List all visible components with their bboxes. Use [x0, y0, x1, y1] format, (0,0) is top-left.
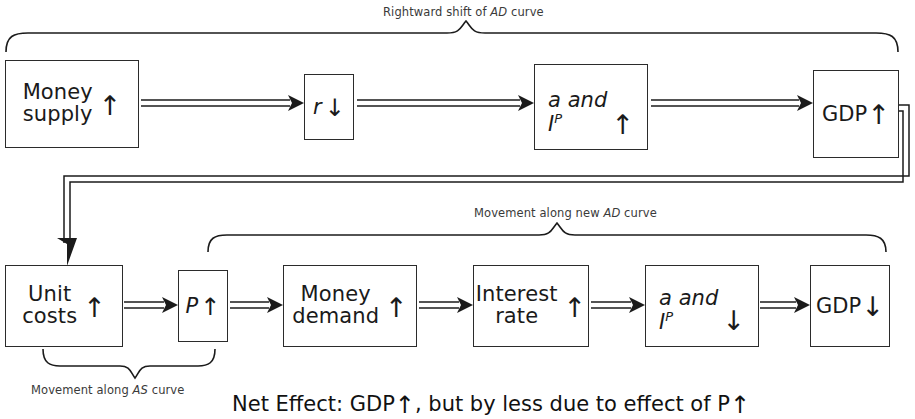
node-money-demand-line1: Money: [301, 282, 371, 306]
feedback-loop-gdp-to-unitcosts: [57, 105, 909, 266]
caption-movement-new-ad-tail: curve: [620, 206, 656, 220]
node-money-demand-direction-icon: ↑: [385, 297, 408, 319]
node-money-supply-line1: Money: [23, 80, 93, 104]
node-price-level-label: P: [186, 295, 199, 317]
node-unit-costs-direction-icon: ↑: [83, 297, 106, 319]
node-a-and-ip-down-superscript: P: [665, 309, 673, 324]
net-effect-arrow-up-2-icon: ↑: [730, 396, 750, 415]
caption-rightward-shift-ad-italic: AD: [490, 5, 507, 19]
net-effect-arrow-up-icon: ↑: [395, 396, 415, 415]
node-a-and-ip-up[interactable]: a and IP ↑: [534, 64, 648, 150]
node-interest-rate-r-label: r: [313, 96, 322, 118]
node-a-and-ip-down[interactable]: a and IP ↓: [645, 265, 759, 347]
node-a-and-ip-up-superscript: P: [554, 111, 562, 126]
node-price-level[interactable]: P ↑: [178, 270, 228, 342]
arrow-bot-5: [760, 297, 810, 313]
net-effect-statement: Net Effect: GDP↑, but by less due to eff…: [232, 392, 750, 416]
caption-movement-as-italic: AS: [133, 383, 148, 397]
arrow-bot-4: [591, 297, 645, 313]
caption-movement-new-ad-text: Movement along new: [474, 206, 603, 220]
arrow-bot-1: [124, 297, 178, 313]
node-gdp-up-direction-icon: ↑: [867, 104, 890, 126]
caption-movement-as: Movement along AS curve: [31, 383, 184, 397]
node-unit-costs-line2: costs: [22, 304, 77, 328]
node-money-demand-line2: demand: [292, 304, 379, 328]
node-a-and-ip-down-direction-icon: ↓: [722, 310, 745, 332]
node-gdp-down[interactable]: GDP ↓: [810, 265, 890, 347]
node-money-supply[interactable]: Money supply ↑: [5, 60, 139, 148]
node-interest-rate-r[interactable]: r ↓: [304, 74, 354, 140]
node-interest-rate-line1: Interest: [476, 282, 558, 306]
net-effect-text-1: Net Effect: GDP: [232, 392, 395, 416]
node-unit-costs[interactable]: Unit costs ↑: [5, 265, 123, 347]
node-interest-rate-line2: rate: [495, 304, 538, 328]
caption-rightward-shift-ad-tail: curve: [507, 5, 543, 19]
arrow-top-2: [357, 95, 534, 111]
caption-rightward-shift-ad: Rightward shift of AD curve: [383, 5, 544, 19]
arrow-top-1: [141, 95, 304, 111]
node-money-supply-line2: supply: [23, 102, 93, 126]
caption-movement-as-text: Movement along: [31, 383, 133, 397]
node-interest-rate[interactable]: Interest rate ↑: [473, 265, 589, 347]
arrow-top-3: [651, 95, 813, 111]
caption-rightward-shift-ad-text: Rightward shift of: [383, 5, 490, 19]
arrow-bot-3: [419, 297, 473, 313]
node-a-and-ip-down-line1: a and: [659, 286, 719, 310]
node-interest-rate-r-direction-icon: ↓: [325, 99, 345, 118]
arrow-bot-2: [230, 297, 283, 313]
node-gdp-down-direction-icon: ↓: [861, 296, 884, 318]
node-money-demand[interactable]: Money demand ↑: [283, 265, 417, 347]
node-price-level-direction-icon: ↑: [200, 298, 220, 317]
node-a-and-ip-up-direction-icon: ↑: [611, 114, 634, 136]
node-gdp-up[interactable]: GDP ↑: [813, 70, 899, 158]
node-gdp-up-label: GDP: [822, 103, 867, 125]
node-money-supply-direction-icon: ↑: [99, 95, 122, 117]
caption-movement-new-ad-italic: AD: [603, 206, 620, 220]
net-effect-text-2: , but by less due to effect of P: [415, 392, 730, 416]
node-unit-costs-line1: Unit: [28, 282, 71, 306]
node-interest-rate-direction-icon: ↑: [564, 297, 587, 319]
node-a-and-ip-up-line1: a and: [548, 88, 608, 112]
caption-movement-new-ad: Movement along new AD curve: [474, 206, 657, 220]
caption-movement-as-tail: curve: [148, 383, 184, 397]
node-gdp-down-label: GDP: [816, 295, 861, 317]
